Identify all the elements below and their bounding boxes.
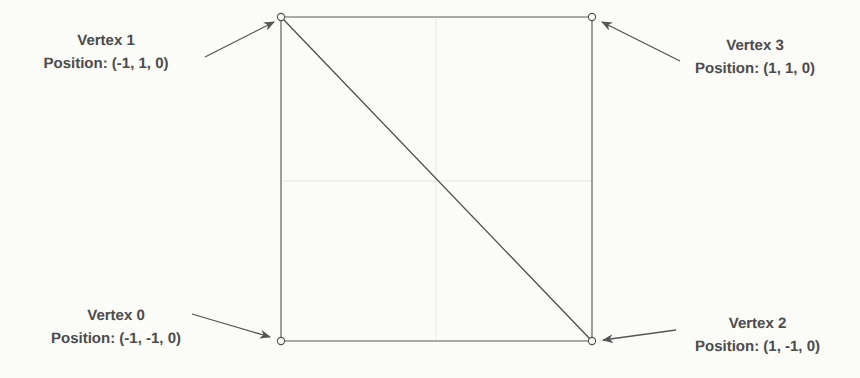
vertex-2-title: Vertex 2 (655, 312, 860, 335)
vertex-0-title: Vertex 0 (10, 304, 222, 327)
vertex-2-position: Position: (1, -1, 0) (655, 335, 860, 358)
vertex-3-callout: Vertex 3 Position: (1, 1, 0) (655, 34, 855, 80)
vertex-marker-2 (588, 337, 595, 344)
vertex-1-title: Vertex 1 (0, 29, 212, 52)
vertex-marker-3 (588, 13, 595, 20)
leader-arrow-vertex-1 (205, 22, 274, 57)
vertex-3-title: Vertex 3 (655, 34, 855, 57)
vertex-0-position: Position: (-1, -1, 0) (10, 327, 222, 350)
vertex-2-callout: Vertex 2 Position: (1, -1, 0) (655, 312, 860, 358)
vertex-1-position: Position: (-1, 1, 0) (0, 52, 212, 75)
diagram-canvas: Vertex 1 Position: (-1, 1, 0) Vertex 3 P… (0, 0, 860, 378)
vertex-0-callout: Vertex 0 Position: (-1, -1, 0) (10, 304, 222, 350)
vertex-1-callout: Vertex 1 Position: (-1, 1, 0) (0, 29, 212, 75)
vertex-3-position: Position: (1, 1, 0) (655, 57, 855, 80)
vertex-marker-1 (277, 13, 284, 20)
vertex-marker-0 (277, 337, 284, 344)
